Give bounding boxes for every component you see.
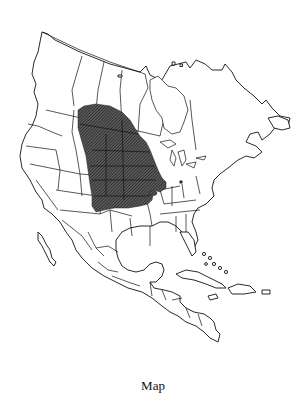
jamaica <box>208 294 218 300</box>
puerto-rico <box>262 290 270 294</box>
north-america-map <box>0 0 306 412</box>
bahamas <box>202 252 227 273</box>
range-map: Map <box>0 0 306 412</box>
range-patch-missouri <box>149 191 157 196</box>
cuba <box>176 270 226 288</box>
hispaniola <box>228 284 256 294</box>
map-caption: Map <box>0 378 306 394</box>
range-patch-ohio <box>179 180 183 184</box>
baja-california <box>38 232 56 266</box>
